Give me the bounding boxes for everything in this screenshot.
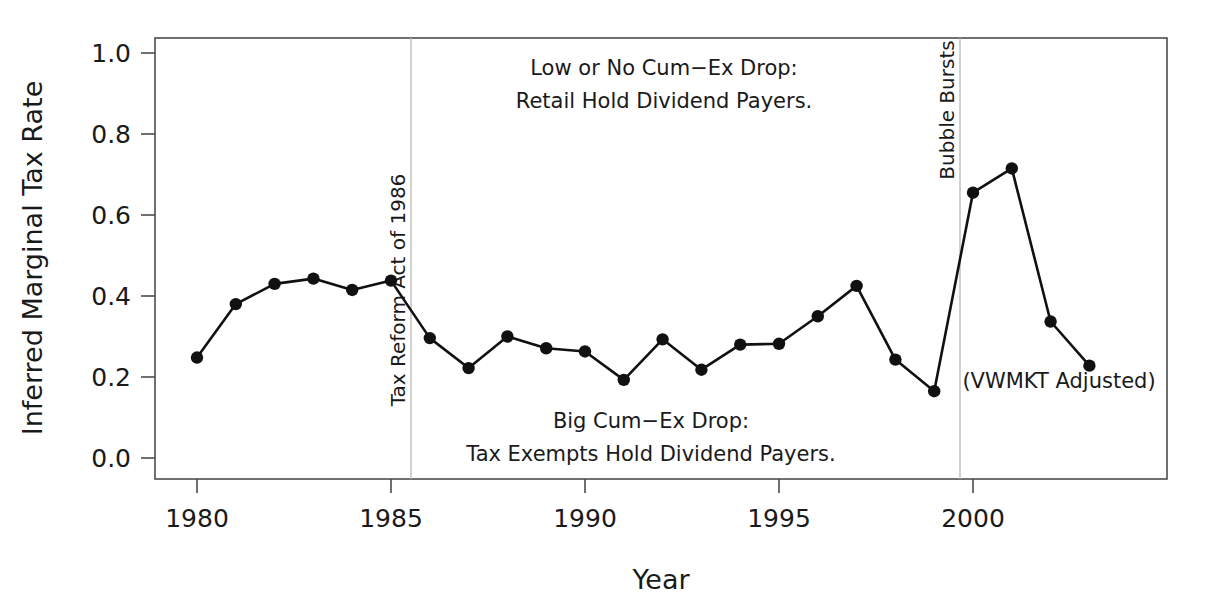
annotation-upper-line-2: Retail Hold Dividend Payers. xyxy=(516,89,813,113)
data-point-1998 xyxy=(889,353,901,365)
x-axis-tick-labels: 1980 1985 1990 1995 2000 xyxy=(165,504,1005,533)
data-point-1999 xyxy=(928,385,940,397)
chart-figure: 0.0 0.2 0.4 0.6 0.8 1.0 Inferred Margina… xyxy=(0,0,1224,612)
data-point-1985 xyxy=(385,274,397,286)
y-ticklabel-0.8: 0.8 xyxy=(91,120,131,149)
y-ticklabel-1.0: 1.0 xyxy=(91,39,131,68)
data-point-1993 xyxy=(695,364,707,376)
y-axis-tick-labels: 0.0 0.2 0.4 0.6 0.8 1.0 xyxy=(91,39,131,473)
annotation-lower-line-1: Big Cum−Ex Drop: xyxy=(553,409,749,433)
x-ticklabel-2000: 2000 xyxy=(941,504,1005,533)
annotation-lower: Big Cum−Ex Drop: Tax Exempts Hold Divide… xyxy=(465,409,835,466)
series-line-inferred-marginal-tax-rate xyxy=(197,168,1089,391)
data-point-1986 xyxy=(424,332,436,344)
data-point-1981 xyxy=(230,298,242,310)
data-point-1989 xyxy=(540,342,552,354)
data-point-1991 xyxy=(618,374,630,386)
data-point-1995 xyxy=(773,338,785,350)
x-ticklabel-1985: 1985 xyxy=(359,504,423,533)
annotation-upper: Low or No Cum−Ex Drop: Retail Hold Divid… xyxy=(516,56,813,113)
data-point-1980 xyxy=(191,351,203,363)
annotation-vwmkt-adjusted: (VWMKT Adjusted) xyxy=(962,369,1155,393)
data-point-1988 xyxy=(501,330,513,342)
data-point-1994 xyxy=(734,338,746,350)
y-ticklabel-0.6: 0.6 xyxy=(91,201,131,230)
data-point-2000 xyxy=(967,187,979,199)
data-point-1982 xyxy=(268,278,280,290)
data-point-1983 xyxy=(307,272,319,284)
y-axis-label: Inferred Marginal Tax Rate xyxy=(17,81,48,436)
x-axis-label: Year xyxy=(631,564,690,595)
x-ticklabel-1980: 1980 xyxy=(165,504,229,533)
x-ticklabel-1990: 1990 xyxy=(553,504,617,533)
data-point-2001 xyxy=(1006,162,1018,174)
data-point-1992 xyxy=(656,333,668,345)
annotation-upper-line-1: Low or No Cum−Ex Drop: xyxy=(530,56,797,80)
x-axis-ticks xyxy=(197,479,973,493)
line-chart-svg: 0.0 0.2 0.4 0.6 0.8 1.0 Inferred Margina… xyxy=(0,0,1224,612)
data-point-1997 xyxy=(850,280,862,292)
data-point-1987 xyxy=(462,362,474,374)
annotation-lower-line-2: Tax Exempts Hold Dividend Payers. xyxy=(465,442,835,466)
data-point-2003 xyxy=(1083,359,1095,371)
data-point-1984 xyxy=(346,284,358,296)
x-ticklabel-1995: 1995 xyxy=(747,504,811,533)
y-axis-ticks xyxy=(141,53,155,458)
vline-label-bubble-bursts: Bubble Bursts xyxy=(935,40,959,179)
data-point-2002 xyxy=(1044,315,1056,327)
data-point-1996 xyxy=(812,310,824,322)
y-ticklabel-0.0: 0.0 xyxy=(91,444,131,473)
data-point-1990 xyxy=(579,345,591,357)
y-ticklabel-0.4: 0.4 xyxy=(91,282,131,311)
y-ticklabel-0.2: 0.2 xyxy=(91,363,131,392)
